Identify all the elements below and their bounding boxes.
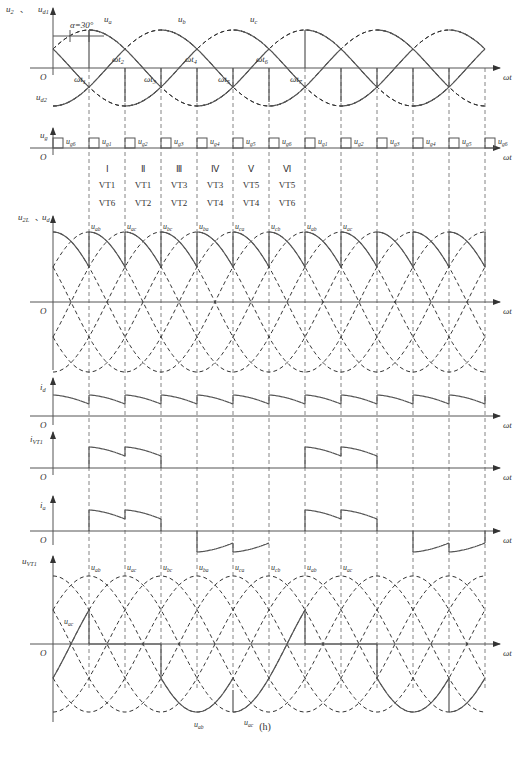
current-waveform [305,447,341,456]
upper-thyristor: VT5 [279,180,296,190]
gate-pulse [377,138,387,148]
phase-b-label: ub [178,14,186,25]
origin-label: O [40,72,47,82]
origin-label: O [40,152,47,162]
phase-current-panel: Oωtia [30,496,512,552]
gate-pulse [305,138,315,148]
ud-waveform [53,232,89,267]
current-waveform [233,543,269,552]
instant-label: ωt2 [112,54,125,65]
y-axis-label: ud1 [38,4,49,15]
output-voltage-panel: Oωtu2L、uduabuacubcubaucaucbuabuac [18,212,512,372]
lower-thyristor: VT6 [99,198,116,208]
ud-waveform [161,232,197,267]
x-axis-label: ωt [503,535,512,545]
gate-pulse [269,138,279,148]
label: 、 [20,5,28,14]
pulse-label: ug5 [246,137,256,147]
current-waveform [413,395,449,404]
origin-label: O [40,648,47,658]
upper-thyristor: VT3 [171,180,188,190]
segment-label: ubc [163,222,173,232]
segment-label: uca [235,563,244,573]
bottom-label: uac [244,718,254,728]
current-waveform [197,395,233,404]
figure-caption: (h) [259,721,271,733]
current-waveform [161,395,197,404]
interval-numeral: Ⅱ [141,164,145,174]
instant-label: ωt1 [74,74,86,85]
current-waveform [89,395,125,404]
current-waveform [449,543,485,552]
ud1-waveform [449,30,485,49]
current-waveform [449,395,485,404]
current-waveform [341,395,377,404]
bottom-label: uab [194,720,204,730]
upper-thyristor: VT1 [135,180,152,190]
current-waveform [125,395,161,404]
y-axis-label: ia [40,500,46,511]
y-axis-label: id [40,382,47,393]
upper-thyristor: VT5 [243,180,260,190]
ud-waveform [413,232,449,267]
interval-numeral: Ⅳ [211,164,220,174]
current-waveform [377,395,413,404]
ud-waveform [341,232,377,267]
gate-pulse [233,138,243,148]
segment-label: uab [307,563,317,573]
lower-thyristor: VT6 [279,198,296,208]
pulse-label: ug2 [138,137,148,147]
current-waveform [197,543,233,552]
uvt1-waveform [377,678,449,712]
current-waveform [341,510,377,519]
current-waveform [53,395,89,404]
interval-numeral: Ⅵ [283,164,291,174]
upper-thyristor: VT1 [99,180,116,190]
current-waveform [125,447,161,456]
x-axis-label: ωt [503,420,512,430]
origin-label: O [40,535,47,545]
current-waveform [305,510,341,519]
uvt1-waveform [161,678,233,712]
instant-label: ωt7 [290,74,303,85]
segment-label: uac [343,222,353,232]
x-axis-label: ωt [503,72,512,82]
x-axis-label: ωt [503,306,512,316]
pulse-label: ug1 [318,137,328,147]
pulse-label: ug5 [462,137,472,147]
segment-label: uac [343,563,353,573]
ud-waveform [377,232,413,267]
current-waveform [341,447,377,456]
origin-label: O [40,306,47,316]
segment-label: ucb [271,222,280,232]
pulse-label: ug6 [498,137,508,147]
lower-thyristor: VT4 [207,198,224,208]
lower-label: ud2 [36,92,48,103]
origin-label: O [40,420,47,430]
lower-thyristor: VT2 [135,198,152,208]
gate-pulse [89,138,99,148]
ud-waveform [197,232,233,267]
side-label: uac [64,617,74,627]
segment-label: uba [199,563,209,573]
lower-thyristor: VT4 [243,198,260,208]
x-axis-label: ωt [503,152,512,162]
pulse-label: ug1 [102,137,112,147]
current-waveform [125,510,161,519]
segment-label: uca [235,222,244,232]
current-waveform [233,395,269,404]
y-axis-label: u2 [6,4,15,15]
timing-guide-lines [89,68,485,690]
uvt1-waveform [449,678,485,712]
current-waveform [269,395,305,404]
gate-pulse [161,138,171,148]
ud-waveform [305,232,341,267]
pulse-label: ug3 [390,137,400,147]
phase-c-label: uc [250,14,258,25]
pulse-label: ug6 [66,137,76,147]
gate-pulse [413,138,423,148]
pulse-label: ug6 [282,137,292,147]
x-axis-label: ωt [503,648,512,658]
rectifier-waveform-diagram: Oωtu2、ud1ud2uaubucα=30°ωt1ωt2ωt3ωt4ωt5ωt… [0,0,530,774]
pulse-label: ug2 [354,137,364,147]
